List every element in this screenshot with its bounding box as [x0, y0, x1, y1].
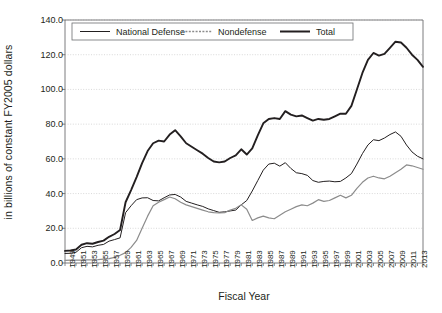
- x-tick-label: 2007: [387, 250, 396, 268]
- x-tick-label: 1967: [167, 250, 176, 268]
- x-tick-label: 1985: [266, 250, 275, 268]
- x-tick-label: 1951: [79, 250, 88, 268]
- x-tick-label: 2009: [398, 250, 407, 268]
- x-tick-label: 1961: [134, 250, 143, 268]
- x-tick-label: 1999: [343, 250, 352, 268]
- x-tick-label: 2005: [376, 250, 385, 268]
- x-tick-label: 1977: [222, 250, 231, 268]
- x-tick-label: 1989: [288, 250, 297, 268]
- x-tick-label: 1997: [332, 250, 341, 268]
- chart-figure: in billions of constant FY2005 dollars 0…: [0, 0, 442, 313]
- x-axis-title: Fiscal Year: [65, 290, 423, 302]
- x-tick-label: 1975: [211, 250, 220, 268]
- x-tick-label: 1963: [145, 250, 154, 268]
- x-tick-label: 1969: [178, 250, 187, 268]
- x-tick-label: 1987: [277, 250, 286, 268]
- x-tick-label: 2013: [420, 250, 429, 268]
- x-tick-label: 2003: [365, 250, 374, 268]
- x-tick-label: 1993: [310, 250, 319, 268]
- x-tick-label: 2001: [354, 250, 363, 268]
- x-tick-label: 1965: [156, 250, 165, 268]
- x-axis-tick-labels: 1949195119531955195719591961196319651967…: [0, 0, 442, 313]
- x-tick-label: 1971: [189, 250, 198, 268]
- x-tick-label: 1953: [90, 250, 99, 268]
- x-tick-label: 1973: [200, 250, 209, 268]
- x-tick-label: 1983: [255, 250, 264, 268]
- x-tick-label: 1959: [123, 250, 132, 268]
- x-tick-label: 1991: [299, 250, 308, 268]
- x-tick-label: 1995: [321, 250, 330, 268]
- x-tick-label: 1981: [244, 250, 253, 268]
- x-tick-label: 1955: [101, 250, 110, 268]
- x-tick-label: 1979: [233, 250, 242, 268]
- x-tick-label: 1957: [112, 250, 121, 268]
- x-tick-label: 2011: [409, 251, 418, 268]
- x-tick-label: 1949: [68, 250, 77, 268]
